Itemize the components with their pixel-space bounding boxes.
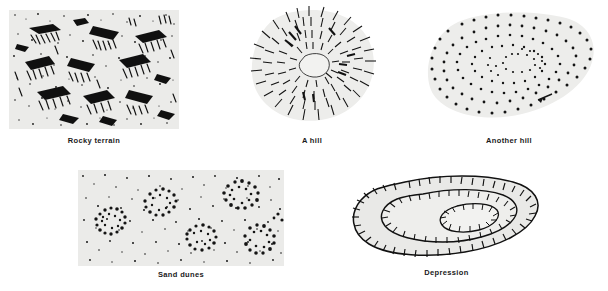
figure-another-hill: Another hill xyxy=(418,8,600,128)
caption-a-hill: A hill xyxy=(243,136,381,145)
hachured-hill-illustration xyxy=(243,4,381,128)
rocky-terrain-illustration xyxy=(9,10,179,129)
dotted-contour-hill-illustration xyxy=(418,8,600,128)
depression-contours-illustration xyxy=(345,172,548,264)
caption-another-hill: Another hill xyxy=(418,136,600,145)
caption-rocky-terrain: Rocky terrain xyxy=(9,136,179,145)
figure-rocky-terrain: Rocky terrain xyxy=(9,10,179,129)
sand-dunes-illustration xyxy=(78,170,284,266)
figure-sand-dunes: Sand dunes xyxy=(78,170,284,266)
figure-a-hill: A hill xyxy=(243,4,381,128)
figure-depression: Depression xyxy=(345,172,548,264)
figure-plate: Rocky terrain xyxy=(0,0,608,291)
bottom-caption-fragment xyxy=(8,283,308,290)
caption-depression: Depression xyxy=(345,268,548,277)
caption-sand-dunes: Sand dunes xyxy=(78,270,284,279)
